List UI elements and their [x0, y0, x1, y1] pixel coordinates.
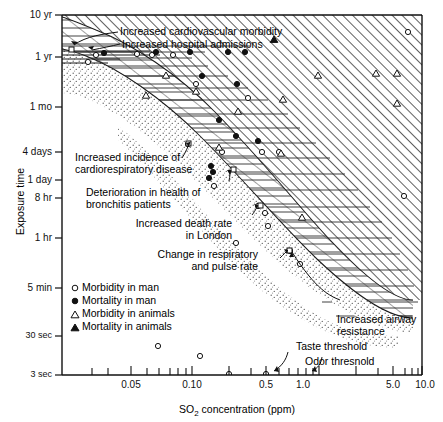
legend-marker-filled-circle	[72, 298, 78, 304]
annotation-bronchitis-patients: Deterioration in health of bronchitis pa…	[86, 186, 204, 210]
legend-marker-open-triangle	[71, 311, 79, 318]
xtick-10.0: 10.0	[405, 379, 443, 390]
legend-item-morbidity-animals: Morbidity in animals	[82, 307, 175, 319]
ytick-1hr: 1 hr	[2, 232, 52, 243]
ytick-30sec: 30 sec	[2, 330, 52, 340]
ytick-1day: 1 day	[2, 174, 52, 185]
legend-item-mortality-man: Mortality in man	[82, 294, 156, 306]
legend-marker-filled-triangle	[71, 324, 79, 331]
ytick-1yr: 1 yr	[2, 51, 52, 62]
ytick-4days: 4 days	[2, 146, 52, 157]
annotation-hospital-admissions: Increased hospital admissions	[122, 38, 263, 50]
legend-marker-open-circle	[72, 285, 78, 291]
y-axis-title: Exposure time	[14, 168, 26, 235]
x-axis-title-text: SO2 concentration (ppm)	[179, 403, 295, 415]
ytick-5min: 5 min	[2, 282, 52, 293]
x-axis-title: SO2 concentration (ppm)	[179, 403, 295, 418]
annotation-cardiorespiratory-disease: Increased incidence of cardiorespiratory…	[75, 151, 195, 175]
chart-canvas	[0, 0, 443, 422]
x-axis-ticks	[92, 366, 422, 375]
y-axis-ticks	[55, 15, 62, 375]
legend-item-morbidity-man: Morbidity in man	[82, 281, 159, 293]
xtick-0.5: 0.5	[246, 379, 286, 390]
xtick-1.0: 1.0	[283, 379, 323, 390]
annotation-respiratory-pulse-rate: Change in respiratory and pulse rate	[152, 248, 258, 272]
legend-item-mortality-animals: Mortality in animals	[82, 320, 172, 332]
annotation-odor-threshold: Odor thresnold	[305, 355, 374, 367]
so2-exposure-chart: 10 yr 1 yr 1 mo 4 days 1 day 8 hr 1 hr 5…	[0, 0, 443, 422]
xtick-0.05: 0.05	[111, 379, 151, 390]
annotation-airway-resistance: Increased airway resistance	[337, 313, 427, 337]
ytick-3sec: 3 sec	[2, 369, 52, 379]
annotation-death-rate-london: Increased death rate in London	[132, 217, 232, 241]
ytick-1mo: 1 mo	[2, 101, 52, 112]
xtick-0.10: 0.10	[172, 379, 212, 390]
ytick-10yr: 10 yr	[2, 9, 52, 20]
ytick-8hr: 8 hr	[2, 192, 52, 203]
annotation-cardiovascular-morbidity: Increased cardiovascular morbidity	[120, 25, 282, 37]
annotation-taste-threshold: Taste threshold	[296, 340, 367, 352]
